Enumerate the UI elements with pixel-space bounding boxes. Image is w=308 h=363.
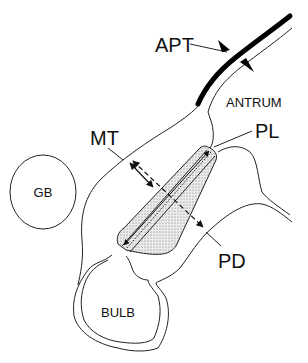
pl-label: PL	[255, 120, 279, 142]
duodenum-upper-wall	[218, 147, 290, 215]
pyloric-ultrasound-diagram: GB BULB APT ANTRUM MT PL PD	[0, 0, 308, 363]
mt-leader-line	[108, 148, 123, 160]
gb-label: GB	[34, 185, 53, 200]
pl-leader-line	[214, 131, 252, 147]
pd-leader-line	[206, 232, 221, 246]
mt-measure-arrow	[130, 163, 153, 187]
apt-label: APT	[155, 34, 194, 56]
bulb-label: BULB	[101, 305, 135, 320]
antrum-label: ANTRUM	[226, 95, 282, 110]
pd-label: PD	[218, 250, 246, 272]
bulb-inner-wall	[81, 256, 160, 343]
apt-arrowhead-bottom	[240, 58, 254, 72]
mt-label: MT	[90, 127, 119, 149]
